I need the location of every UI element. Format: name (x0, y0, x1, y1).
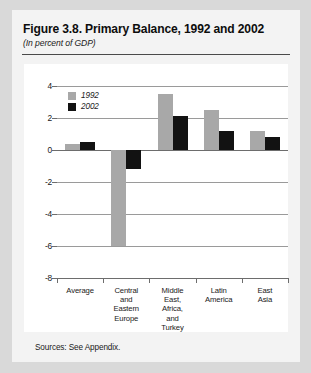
ytick-mark-0 (52, 150, 57, 151)
xtick-5 (288, 278, 289, 283)
ytick-mark-4 (52, 86, 57, 87)
category-label-line: Africa, (162, 304, 183, 313)
ytick-mark--6 (52, 246, 57, 247)
gridline-4 (57, 86, 288, 87)
gridline--6 (57, 246, 288, 247)
category-label-4: EastAsia (242, 286, 288, 304)
category-label-line: Europe (114, 314, 138, 323)
xtick-0 (57, 278, 58, 283)
figure-title: Figure 3.8. Primary Balance, 1992 and 20… (23, 22, 295, 36)
ytick-label-0: 0 (30, 145, 52, 155)
legend-label-1992: 1992 (81, 91, 99, 100)
category-label-line: and (120, 295, 132, 304)
xtick-2 (149, 278, 150, 283)
gridline--8 (57, 278, 288, 279)
gridline--4 (57, 214, 288, 215)
ytick-label--8: -8 (30, 273, 52, 283)
bar-1992-3 (204, 110, 219, 150)
category-label-line: Middle (162, 286, 184, 295)
xtick-4 (242, 278, 243, 283)
legend-label-2002: 2002 (81, 102, 99, 111)
bar-2002-4 (265, 137, 280, 150)
ytick-mark--2 (52, 182, 57, 183)
chart-category-labels: AverageCentralandEasternEuropeMiddleEast… (57, 286, 288, 334)
category-label-line: Latin (211, 286, 227, 295)
chart-legend: 1992 2002 (68, 90, 99, 112)
header-divider (22, 54, 290, 55)
bar-1992-4 (250, 131, 265, 150)
category-label-line: America (205, 295, 232, 304)
xtick-3 (196, 278, 197, 283)
xtick-1 (103, 278, 104, 283)
figure-subtitle: (In percent of GDP) (23, 38, 96, 48)
category-label-1: CentralandEasternEurope (103, 286, 149, 323)
category-label-2: MiddleEast,Africa,andTurkey (149, 286, 195, 332)
chart-plot-area: 420-2-4-6-8 1992 2002 AverageCentralandE… (24, 64, 288, 332)
bar-1992-0 (65, 144, 80, 150)
bar-2002-3 (219, 131, 234, 150)
legend-item-1992: 1992 (68, 90, 99, 101)
bar-2002-0 (80, 142, 95, 150)
ytick-label--6: -6 (30, 241, 52, 251)
bar-2002-1 (126, 150, 141, 169)
ytick-label--4: -4 (30, 209, 52, 219)
ytick-mark--4 (52, 214, 57, 215)
figure-container: Figure 3.8. Primary Balance, 1992 and 20… (12, 10, 300, 362)
bar-1992-1 (111, 150, 126, 246)
category-label-line: Turkey (161, 323, 183, 332)
gridline-0 (57, 150, 288, 151)
figure-page: Figure 3.8. Primary Balance, 1992 and 20… (0, 0, 311, 373)
category-label-line: Asia (258, 295, 272, 304)
category-label-0: Average (57, 286, 103, 295)
bar-1992-2 (158, 94, 173, 150)
category-label-line: Average (66, 286, 93, 295)
legend-swatch-1992 (68, 92, 76, 100)
source-note: Sources: See Appendix. (35, 343, 120, 352)
bar-2002-2 (173, 116, 188, 150)
ytick-label-4: 4 (30, 81, 52, 91)
category-label-line: East, (164, 295, 181, 304)
legend-swatch-2002 (68, 103, 76, 111)
category-label-3: LatinAmerica (196, 286, 242, 304)
ytick-mark-2 (52, 118, 57, 119)
category-label-line: Eastern (114, 304, 139, 313)
ytick-label--2: -2 (30, 177, 52, 187)
gridline--2 (57, 182, 288, 183)
category-label-line: East (257, 286, 272, 295)
category-label-line: Central (114, 286, 138, 295)
category-label-line: and (166, 314, 178, 323)
legend-item-2002: 2002 (68, 101, 99, 112)
ytick-label-2: 2 (30, 113, 52, 123)
